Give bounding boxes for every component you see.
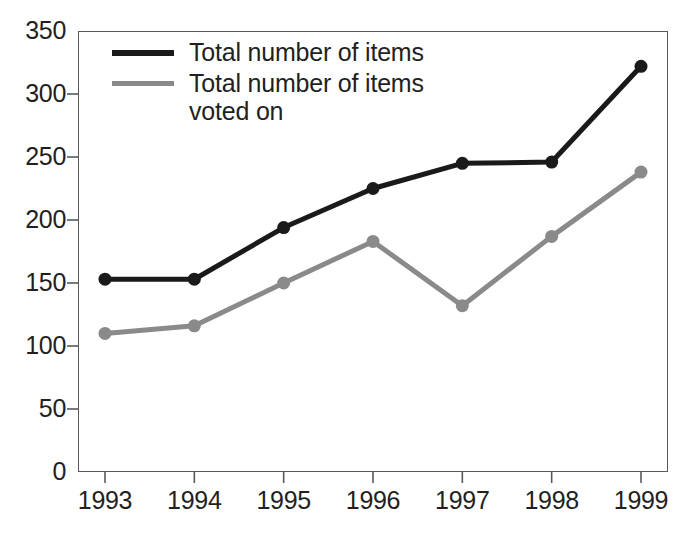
- data-point-marker: [99, 327, 112, 340]
- y-tick-label: 200: [2, 207, 66, 232]
- legend-swatch-icon: [112, 50, 174, 56]
- x-tick-label: 1995: [239, 488, 329, 513]
- y-tick-label: 150: [2, 270, 66, 295]
- data-point-marker: [277, 277, 290, 290]
- data-point-marker: [635, 60, 648, 73]
- x-tick-label: 1999: [596, 488, 686, 513]
- x-tick-label: 1996: [328, 488, 418, 513]
- legend-swatch-icon: [112, 81, 174, 86]
- data-point-marker: [545, 230, 558, 243]
- legend-item: Total number of items voted on: [112, 69, 424, 125]
- y-tick-label: 300: [2, 81, 66, 106]
- x-tick-label: 1997: [417, 488, 507, 513]
- y-tick-label: 0: [2, 459, 66, 484]
- legend-label: Total number of items: [189, 38, 424, 66]
- data-point-marker: [635, 166, 648, 179]
- data-point-marker: [99, 273, 112, 286]
- x-axis-ticks: [105, 472, 641, 483]
- series-line: [105, 172, 641, 333]
- x-tick-label: 1994: [149, 488, 239, 513]
- chart-legend: Total number of items Total number of it…: [112, 38, 424, 128]
- data-point-marker: [545, 156, 558, 169]
- x-tick-label: 1993: [60, 488, 150, 513]
- data-point-marker: [277, 221, 290, 234]
- line-chart: 050100150200250300350 199319941995199619…: [0, 0, 699, 533]
- y-tick-label: 50: [2, 396, 66, 421]
- y-tick-label: 100: [2, 333, 66, 358]
- x-tick-label: 1998: [507, 488, 597, 513]
- data-point-marker: [188, 319, 201, 332]
- data-point-marker: [456, 299, 469, 312]
- data-point-marker: [456, 157, 469, 170]
- data-point-marker: [188, 273, 201, 286]
- y-tick-label: 250: [2, 144, 66, 169]
- data-point-marker: [367, 182, 380, 195]
- legend-item: Total number of items: [112, 38, 424, 66]
- legend-label: Total number of items voted on: [189, 69, 424, 125]
- y-axis-ticks: [67, 94, 78, 409]
- y-tick-label: 350: [2, 18, 66, 43]
- data-point-marker: [367, 235, 380, 248]
